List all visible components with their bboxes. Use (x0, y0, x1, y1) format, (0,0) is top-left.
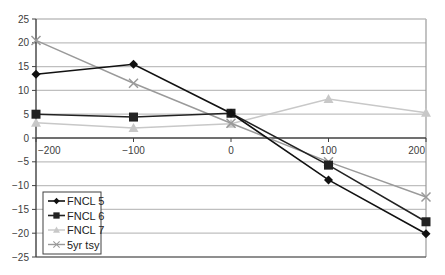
x-tick-label: 0 (228, 145, 234, 156)
legend-label: FNCL 6 (67, 210, 105, 222)
y-tick-label: 15 (18, 61, 30, 72)
legend-label: FNCL 7 (67, 224, 105, 236)
y-tick-label: −10 (12, 180, 29, 191)
y-tick-label: 5 (23, 109, 29, 120)
legend-label: 5yr tsy (67, 239, 100, 251)
x-tick-label: −200 (38, 145, 61, 156)
square-marker (53, 212, 59, 218)
diamond-marker (422, 229, 431, 238)
y-tick-label: −20 (12, 228, 29, 239)
y-tick-label: 25 (18, 14, 30, 25)
x-tick-label: 100 (320, 145, 337, 156)
legend: FNCL 5FNCL 6FNCL 75yr tsy (43, 192, 105, 254)
square-marker (324, 161, 333, 170)
square-marker (129, 113, 138, 122)
y-axis: 2520151050−5−10−15−20−25 (12, 14, 36, 263)
diamond-marker (324, 175, 333, 184)
x-tick-label: 200 (408, 145, 425, 156)
legend-label: FNCL 5 (67, 195, 105, 207)
x-axis: −200−1000100200 (36, 138, 426, 156)
y-tick-label: −25 (12, 252, 29, 263)
diamond-marker (32, 70, 41, 79)
square-marker (422, 217, 431, 226)
x-tick-label: −100 (122, 145, 145, 156)
y-tick-label: 10 (18, 85, 30, 96)
y-tick-label: 0 (23, 133, 29, 144)
line-chart: 2520151050−5−10−15−20−25 −200−1000100200… (0, 0, 445, 275)
diamond-marker (129, 60, 138, 69)
square-marker (32, 110, 41, 119)
y-tick-label: 20 (18, 37, 30, 48)
y-tick-label: −15 (12, 204, 29, 215)
x-marker (129, 79, 138, 88)
y-tick-label: −5 (18, 156, 30, 167)
triangle-marker (324, 94, 334, 103)
